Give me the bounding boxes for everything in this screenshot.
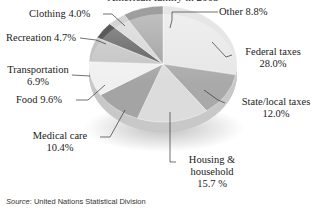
source-text: : United Nations Statistical Division [30, 197, 146, 206]
label-other: Other 8.8% [219, 6, 267, 18]
label-housing-name1: Housing & [177, 154, 247, 166]
label-state-local-taxes: State/local taxes 12.0% [226, 96, 326, 120]
label-housing-value: 15.7 % [177, 178, 247, 190]
label-housing: Housing & household 15.7 % [177, 154, 247, 190]
label-recreation: Recreation 4.7% [6, 32, 76, 44]
label-transportation: Transportation 6.9% [4, 64, 72, 88]
label-medical-care: Medical care 10.4% [20, 130, 100, 154]
label-federal-taxes: Federal taxes 28.0% [232, 46, 314, 70]
label-transport-name: Transportation [4, 64, 72, 76]
pie-slices [89, 6, 237, 132]
label-food: Food 9.6% [16, 94, 62, 106]
label-clothing: Clothing 4.0% [29, 8, 90, 20]
label-medical-name: Medical care [20, 130, 100, 142]
source-note: Source: United Nations Statistical Divis… [6, 197, 146, 206]
label-state-value: 12.0% [226, 108, 326, 120]
label-medical-value: 10.4% [20, 142, 100, 154]
label-transport-value: 6.9% [4, 76, 72, 88]
label-federal-name: Federal taxes [232, 46, 314, 58]
label-housing-name2: household [177, 166, 247, 178]
label-federal-value: 28.0% [232, 58, 314, 70]
source-prefix: Source [6, 197, 30, 206]
label-state-name: State/local taxes [226, 96, 326, 108]
